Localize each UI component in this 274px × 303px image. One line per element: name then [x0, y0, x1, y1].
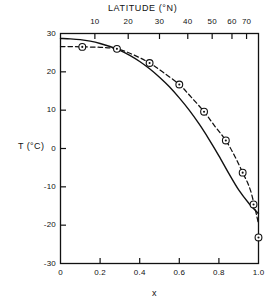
- x-tick-label: 1.0: [250, 268, 268, 277]
- data-point-marker: [79, 44, 86, 51]
- data-point-marker: [255, 234, 262, 241]
- x-tick-label: 0: [52, 268, 70, 277]
- latitude-tick-label: 20: [119, 17, 137, 26]
- data-point-marker: [250, 201, 257, 208]
- data-point-marker: [146, 60, 153, 67]
- data-point-marker: [114, 45, 121, 52]
- latitude-tick-label: 10: [86, 17, 104, 26]
- data-point-marker: [239, 169, 246, 176]
- data-point-marker: [201, 108, 208, 115]
- x-tick-label: 0.4: [131, 268, 149, 277]
- y-tick-label: 0: [30, 144, 56, 153]
- axes-frame: [61, 34, 259, 264]
- latitude-tick-label: 30: [151, 17, 169, 26]
- x-tick-label: 0.8: [210, 268, 228, 277]
- x-tick-label: 0.6: [170, 268, 188, 277]
- latitude-tick-label: 40: [179, 17, 197, 26]
- latitude-tick-label: 50: [203, 17, 221, 26]
- latitude-tick-label: 70: [238, 17, 256, 26]
- y-tick-label: 20: [30, 67, 56, 76]
- series-line-solid: [61, 38, 259, 213]
- x-tick-label: 0.2: [91, 268, 109, 277]
- data-point-marker: [176, 81, 183, 88]
- top-axis-title: LATITUDE (°N): [108, 3, 177, 13]
- x-axis-title: x: [152, 288, 157, 298]
- y-tick-label: -10: [30, 182, 56, 191]
- chart-figure: LATITUDE (°N) T (°C) x 00.20.40.60.81.03…: [0, 0, 274, 303]
- data-point-marker: [222, 137, 229, 144]
- y-tick-label: -20: [30, 220, 56, 229]
- series-line-dashed: [61, 47, 259, 224]
- y-tick-label: 30: [30, 29, 56, 38]
- y-tick-label: -30: [30, 259, 56, 268]
- y-tick-label: 10: [30, 105, 56, 114]
